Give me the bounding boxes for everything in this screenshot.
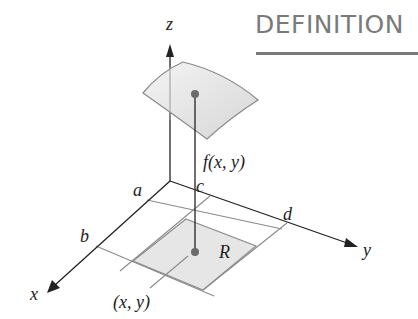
z-arrowhead: [166, 44, 174, 57]
label-d: d: [283, 204, 293, 224]
y-arrowhead: [344, 238, 358, 247]
function-label: f(x, y): [203, 152, 245, 173]
surface-point: [191, 90, 199, 98]
double-integral-diagram: z x y a b c d R f(x, y) (x, y): [0, 0, 418, 319]
label-a: a: [133, 180, 142, 200]
x-axis-label: x: [29, 284, 38, 304]
label-c: c: [196, 176, 204, 196]
point-label: (x, y): [113, 292, 150, 313]
surface-patch: [143, 62, 258, 139]
line-x-a: [147, 200, 282, 229]
region-label: R: [218, 242, 230, 262]
z-axis-label: z: [165, 14, 173, 34]
base-point: [191, 248, 199, 256]
y-axis-label: y: [361, 240, 371, 260]
label-b: b: [80, 226, 89, 246]
